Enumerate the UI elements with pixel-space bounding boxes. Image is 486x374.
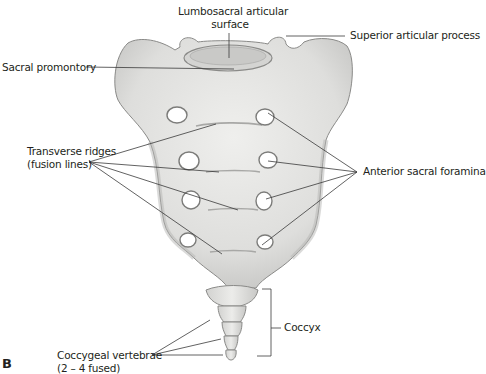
label-anterior-sacral-foramina: Anterior sacral foramina — [363, 165, 486, 178]
label-lumbosacral-articular-surface: Lumbosacral articular surface — [178, 5, 282, 31]
label-transverse-ridges: Transverse ridges (fusion lines) — [27, 145, 116, 171]
label-sacral-promontory: Sacral promontory — [2, 61, 96, 74]
label-coccyx: Coccyx — [284, 321, 321, 334]
coccyx-illustration — [206, 286, 258, 361]
label-superior-articular-process: Superior articular process — [350, 29, 480, 42]
panel-letter: B — [2, 356, 12, 371]
label-coccygeal-vertebrae: Coccygeal vertebrae (2 – 4 fused) — [57, 349, 162, 374]
